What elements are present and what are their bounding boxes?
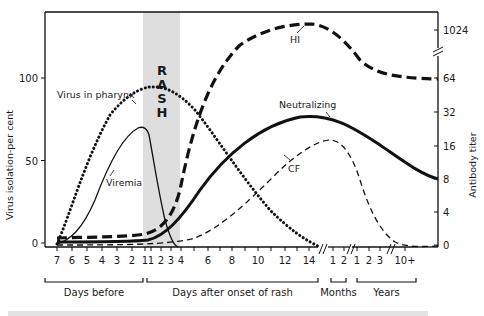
x-tick-label: 2 (129, 255, 135, 266)
x-tick-label: 4 (99, 255, 105, 266)
rash-label: RASH (157, 63, 168, 120)
right-tick-label: 32 (443, 107, 456, 118)
x-group-label: Months (320, 287, 357, 298)
x-group-bracket (45, 278, 143, 282)
x-tick-label: 10+ (394, 255, 415, 266)
x-axis-break (323, 244, 327, 254)
x-tick-label: 14 (303, 255, 316, 266)
x-tick-label: 1 (330, 255, 336, 266)
label-virus-in-pharynx: Virus in pharynx (57, 89, 135, 100)
right-axis-ticks: 0481632641024 (434, 25, 468, 251)
pointer-virus-in-pharynx (132, 100, 136, 104)
x-group-brackets: Days beforeDays after onset of rashMonth… (45, 278, 416, 298)
label-viremia: Viremia (106, 177, 142, 188)
chart: RASH 76543211234681012141212310+ Days be… (0, 0, 484, 316)
label-hi: HI (290, 34, 300, 45)
right-tick-label: 1024 (443, 25, 468, 36)
x-tick-label: 3 (377, 255, 383, 266)
left-tick-label: 50 (25, 156, 38, 167)
x-group-label: Days after onset of rash (172, 287, 293, 298)
x-tick-label: 7 (54, 255, 60, 266)
x-tick-label: 3 (114, 255, 120, 266)
x-ticks: 76543211234681012141212310+ (54, 247, 416, 266)
x-axis-break (347, 244, 351, 254)
x-axis-break (391, 244, 395, 254)
right-tick-label: 4 (443, 207, 449, 218)
x-tick-label: 4 (178, 255, 184, 266)
x-tick-label: 10 (252, 255, 265, 266)
x-tick-label: 2 (366, 255, 372, 266)
left-tick-label: 100 (19, 73, 38, 84)
x-tick-label: 12 (279, 255, 292, 266)
x-group-bracket (331, 278, 346, 282)
rash-letter: R (157, 63, 167, 78)
right-axis-break (433, 47, 443, 56)
x-group-bracket (357, 278, 416, 282)
series-hi (57, 24, 438, 238)
x-group-label: Years (372, 287, 399, 298)
left-axis-ticks: 050100 (19, 73, 45, 249)
x-group-bracket (147, 278, 318, 282)
label-neutralizing: Neutralizing (279, 99, 336, 110)
x-tick-label: 5 (84, 255, 90, 266)
series-virus-in-pharynx (57, 87, 320, 247)
right-tick-label: 64 (443, 73, 456, 84)
right-tick-label: 0 (443, 240, 449, 251)
x-axis-break (387, 244, 391, 254)
right-tick-label: 8 (443, 174, 449, 185)
x-tick-label: 1 (354, 255, 360, 266)
rash-letter: S (157, 91, 166, 106)
pointer-hi (297, 26, 304, 33)
x-tick-label: 8 (229, 255, 235, 266)
rash-letter: H (157, 105, 168, 120)
caption-fragment (8, 311, 428, 316)
x-group-label: Days before (64, 287, 124, 298)
pointer-neutralizing (326, 112, 330, 117)
x-tick-label: 1 (148, 255, 154, 266)
x-tick-label: 3 (168, 255, 174, 266)
left-tick-label: 0 (32, 238, 38, 249)
pointer-cf (284, 155, 290, 160)
x-tick-label: 2 (158, 255, 164, 266)
x-axis-break (319, 244, 323, 254)
x-axis-line (45, 244, 438, 254)
left-axis-title: Virus isolation-per cent (4, 110, 15, 220)
rash-band (143, 12, 180, 247)
x-tick-label: 2 (341, 255, 347, 266)
x-axis-break (351, 244, 355, 254)
right-tick-label: 16 (443, 141, 456, 152)
label-cf: CF (288, 163, 300, 174)
x-tick-label: 6 (69, 255, 75, 266)
right-axis-title: Antibody titer (467, 132, 478, 197)
x-tick-label: 6 (205, 255, 211, 266)
pointer-viremia (110, 170, 114, 176)
